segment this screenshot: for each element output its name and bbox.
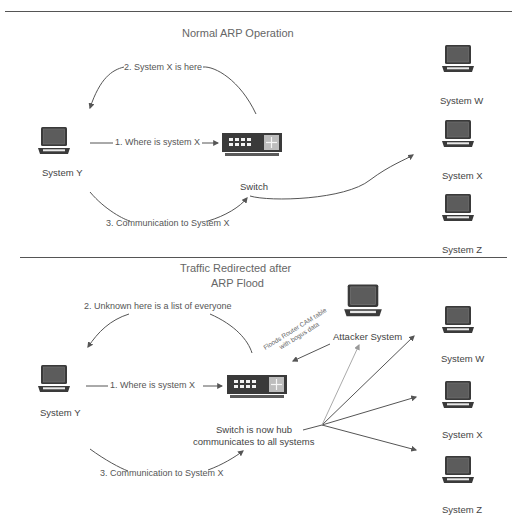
arrow-label-step3: 3. Communication to System X <box>106 218 230 228</box>
laptop-icon <box>441 305 475 335</box>
bottom-panel-title-line1: Traffic Redirected after <box>180 262 291 274</box>
system-x-label: System X <box>442 429 483 440</box>
arrow-label-step1: 1. Where is system X <box>110 380 195 390</box>
arrow-label-step2: 2. Unknown here is a list of everyone <box>84 301 232 311</box>
system-y-label: System Y <box>40 407 80 418</box>
system-x-label: System X <box>442 170 483 181</box>
laptop-icon <box>441 119 475 149</box>
system-z-label: System Z <box>442 504 482 515</box>
arrow-label-step1: 1. Where is system X <box>115 137 200 147</box>
system-w-label: System W <box>440 95 483 106</box>
arrow-label-step3: 3. Communication to System X <box>100 468 224 478</box>
system-y-label: System Y <box>42 167 82 178</box>
attacker-laptop-icon <box>343 283 383 319</box>
switch-hub-label-line2: communicates to all systems <box>193 436 314 447</box>
arrow-step2 <box>203 67 256 114</box>
switch-icon <box>227 374 287 400</box>
top-panel-title: Normal ARP Operation <box>182 27 294 39</box>
switch-icon <box>222 132 282 158</box>
laptop-icon <box>441 44 475 74</box>
bottom-panel-title-line2: ARP Flood <box>211 277 264 289</box>
laptop-icon <box>37 126 71 156</box>
attacker-system-label: Attacker System <box>333 331 402 342</box>
switch-hub-label-line1: Switch is now hub <box>216 424 292 435</box>
system-z-label: System Z <box>442 244 482 255</box>
switch-label: Switch <box>240 181 268 192</box>
arrow-label-step2: 2. System X is here <box>124 62 202 72</box>
laptop-icon <box>441 380 475 410</box>
laptop-icon <box>37 364 71 394</box>
system-w-label: System W <box>441 353 484 364</box>
laptop-icon <box>441 455 475 485</box>
laptop-icon <box>441 193 475 223</box>
